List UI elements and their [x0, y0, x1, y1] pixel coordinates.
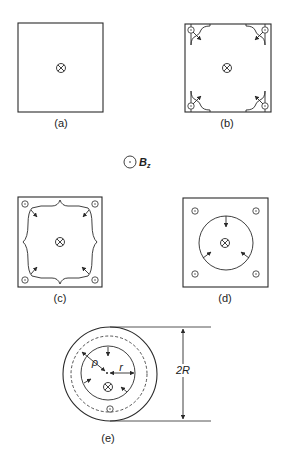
arrow-icon: [203, 252, 211, 258]
corner-dot-icon: [253, 271, 259, 277]
r-label: r: [119, 361, 124, 373]
panel-d: (d): [183, 198, 268, 304]
panel-label: (d): [218, 292, 231, 304]
field-into-page-icon: [57, 64, 66, 73]
panel-c: (c): [18, 197, 102, 304]
panel-b: (b): [185, 24, 271, 129]
arrow-icon: [83, 210, 89, 217]
corner-dot-icon: [253, 208, 259, 214]
corner-curve-br: [246, 91, 265, 112]
panel-label: (b): [220, 117, 233, 129]
arrow-icon: [82, 267, 89, 274]
panel-label: (a): [54, 117, 67, 129]
corner-dot-icon: [92, 201, 98, 207]
corner-dot-icon: [92, 277, 98, 283]
arrow-icon: [31, 210, 37, 217]
arrow-icon: [31, 267, 37, 274]
arrow-icon: [121, 387, 127, 392]
corner-curve-tr: [246, 24, 265, 45]
corner-dot-icon: [22, 277, 28, 283]
field-into-page-icon: [221, 239, 230, 248]
legend-bz: Bz: [124, 156, 151, 169]
corner-curve-bl: [191, 91, 210, 112]
panel-e: ρ r 2R (e): [63, 327, 211, 444]
rho-label: ρ: [91, 356, 98, 368]
arrow-icon: [84, 379, 91, 383]
corner-curve-tl: [191, 24, 210, 45]
diagram-canvas: (a) (b) Bz (c): [0, 0, 282, 458]
corner-dot-icon: [22, 201, 28, 207]
arrow-icon: [241, 252, 249, 258]
diameter-label: 2R: [175, 364, 190, 376]
panel-a: (a): [18, 23, 103, 129]
field-into-page-icon: [104, 383, 113, 392]
field-into-page-icon: [223, 64, 232, 73]
corner-dot-icon: [192, 271, 198, 277]
out-of-page-icon: [107, 406, 113, 412]
field-into-page-icon: [56, 238, 65, 247]
panel-label: (c): [54, 292, 67, 304]
corner-dot-icon: [192, 208, 198, 214]
legend-label: Bz: [139, 156, 151, 169]
panel-label: (e): [101, 432, 114, 444]
dashed-circle: [71, 336, 147, 412]
